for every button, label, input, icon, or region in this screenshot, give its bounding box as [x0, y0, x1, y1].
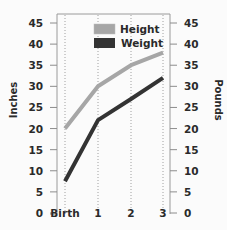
height-weight-chart: 051015202530354045 051015202530354045 Bi… [0, 0, 227, 230]
right-tick-label: 30 [184, 80, 199, 92]
right-tick-label: 10 [184, 165, 199, 177]
right-tick-label: 15 [184, 144, 199, 156]
left-tick-label: 35 [28, 59, 43, 71]
series-line-height [65, 53, 163, 129]
left-tick-label: 15 [28, 144, 43, 156]
left-tick-label: 30 [28, 80, 43, 92]
legend-label-weight: Weight [121, 37, 163, 49]
series-line-weight [65, 78, 163, 181]
left-axis: 051015202530354045 [28, 17, 57, 219]
x-tick-label: Birth [50, 207, 79, 219]
right-axis-title: Pounds [213, 79, 224, 121]
x-tick-label: 3 [159, 207, 166, 219]
left-tick-label: 20 [28, 123, 43, 135]
right-tick-label: 0 [184, 207, 191, 219]
right-tick-label: 25 [184, 101, 199, 113]
legend-label-height: Height [120, 23, 160, 35]
left-tick-label: 5 [36, 186, 43, 198]
x-tick-label: 2 [127, 207, 134, 219]
right-axis: 051015202530354045 [170, 17, 199, 219]
right-tick-label: 40 [184, 38, 199, 50]
left-tick-label: 45 [28, 17, 43, 29]
legend-swatch-weight [94, 38, 115, 48]
legend: Height Weight [94, 23, 163, 49]
x-tick-label: 1 [94, 207, 101, 219]
right-tick-label: 5 [184, 186, 191, 198]
right-tick-label: 20 [184, 123, 199, 135]
left-tick-label: 40 [28, 38, 43, 50]
right-tick-label: 35 [184, 59, 199, 71]
right-tick-label: 45 [184, 17, 199, 29]
left-tick-label: 25 [28, 101, 43, 113]
series-lines [65, 53, 163, 182]
left-tick-label: 0 [36, 207, 43, 219]
legend-swatch-height [94, 24, 115, 34]
left-tick-label: 10 [28, 165, 43, 177]
x-axis: Birth123 [50, 207, 166, 219]
left-axis-title: Inches [8, 82, 19, 119]
